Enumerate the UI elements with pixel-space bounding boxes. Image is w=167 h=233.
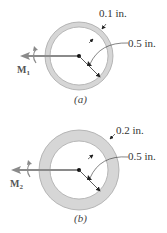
thickness-label-a: 0.1 in. <box>99 7 127 19</box>
radius-label-a: 0.5 in. <box>128 37 156 49</box>
caption-b: (b) <box>74 212 87 225</box>
radius-line-b <box>79 170 100 191</box>
radius-label-b: 0.5 in. <box>128 150 156 162</box>
thickness-label-b: 0.2 in. <box>116 124 144 136</box>
moment-label-a: M1 <box>17 64 30 77</box>
moment-label-b: M2 <box>10 178 23 191</box>
caption-a: (a) <box>74 93 87 106</box>
figure-a: 0.1 in. 0.5 in. M1 (a) <box>17 7 156 106</box>
radius-line-a <box>79 56 100 77</box>
figure-b: 0.2 in. 0.5 in. M2 (b) <box>10 124 156 225</box>
torsion-diagram: 0.1 in. 0.5 in. M1 (a) 0.2 in. 0.5 in. M… <box>0 0 167 233</box>
